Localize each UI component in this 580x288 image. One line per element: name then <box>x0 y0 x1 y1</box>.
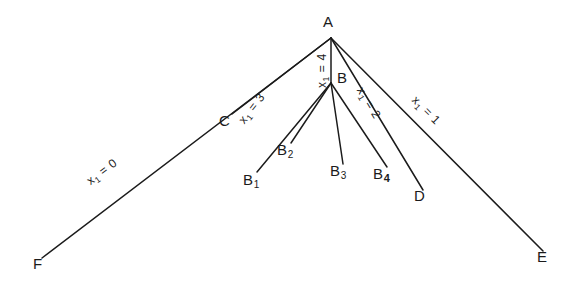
node-label-f: F <box>33 256 42 271</box>
node-label-b2: B2 <box>277 142 293 157</box>
tree-edge-b-b2 <box>291 83 331 143</box>
label-x1-4: x1 = 4 <box>316 53 328 88</box>
node-label-b1: B1 <box>243 172 259 187</box>
node-label-c: C <box>219 113 230 128</box>
tree-edge-b-b1 <box>257 83 331 172</box>
node-label-b4: B4 <box>373 166 390 181</box>
tree-edge-b-b3 <box>331 83 343 164</box>
node-label-b: B <box>337 70 347 85</box>
node-label-b3: B3 <box>330 163 346 178</box>
tree-edge-a-e <box>331 38 543 251</box>
diagram-canvas: ABCDEFB1B2B3B4 x1 = 0x1 = 3x1 = 4x1 = 2x… <box>0 0 580 288</box>
node-label-e: E <box>537 249 547 264</box>
node-label-a: A <box>323 14 333 29</box>
node-label-d: D <box>414 188 425 203</box>
